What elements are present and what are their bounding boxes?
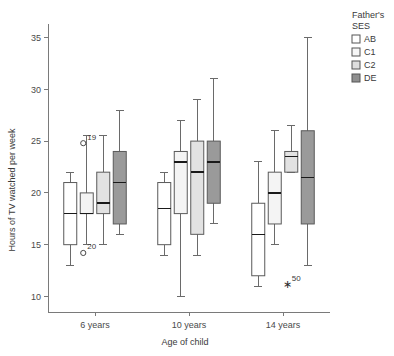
outlier-label: 50: [292, 274, 301, 283]
box-rect: [97, 172, 110, 213]
box-ab-10-years: [158, 172, 171, 255]
legend-swatch-ab[interactable]: [352, 35, 360, 43]
outlier-label: 20: [87, 242, 96, 251]
legend-title-line2: SES: [352, 21, 370, 31]
outlier-label: 19: [87, 133, 96, 142]
x-tick-label: 14 years: [266, 320, 301, 330]
x-axis-title: Age of child: [161, 337, 208, 347]
legend-label-c1: C1: [364, 47, 376, 57]
y-tick-label: 35: [31, 33, 41, 43]
legend-label-c2: C2: [364, 60, 376, 70]
box-rect: [80, 193, 93, 214]
legend-swatch-c2[interactable]: [352, 61, 360, 69]
box-rect: [158, 183, 171, 245]
boxplot-chart: 101520253035 6 years10 years14 years 192…: [0, 0, 394, 356]
y-axis-title: Hours of TV watched per week: [7, 128, 17, 251]
y-tick-label: 20: [31, 188, 41, 198]
box-rect: [174, 151, 187, 213]
y-tick-label: 15: [31, 240, 41, 250]
legend-swatch-c1[interactable]: [352, 48, 360, 56]
y-tick-label: 25: [31, 136, 41, 146]
x-tick-label: 10 years: [172, 320, 207, 330]
box-rect: [113, 151, 126, 224]
box-rect: [191, 141, 204, 234]
x-tick-label: 6 years: [80, 320, 110, 330]
y-tick-label: 30: [31, 85, 41, 95]
box-rect: [268, 172, 281, 224]
plot-canvas: 101520253035 6 years10 years14 years 192…: [0, 0, 394, 356]
y-tick-label: 10: [31, 292, 41, 302]
box-rect: [207, 141, 220, 203]
legend-title-line1: Father's: [352, 10, 385, 20]
legend-swatch-de[interactable]: [352, 74, 360, 82]
legend-label-de: DE: [364, 73, 377, 83]
legend-label-ab: AB: [364, 34, 376, 44]
box-rect: [252, 203, 265, 276]
box-rect: [285, 151, 298, 172]
